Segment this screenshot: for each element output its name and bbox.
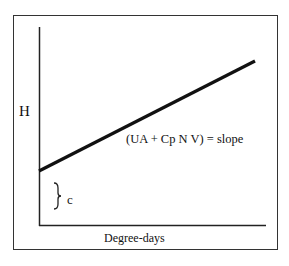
- heating-line: [39, 61, 255, 171]
- x-axis-label: Degree-days: [104, 232, 165, 244]
- intercept-annotation: c: [67, 193, 73, 206]
- y-axis-label: H: [19, 104, 30, 119]
- intercept-brace-icon: [54, 183, 61, 209]
- slope-annotation: (UA + Cp N V) = slope: [126, 133, 243, 146]
